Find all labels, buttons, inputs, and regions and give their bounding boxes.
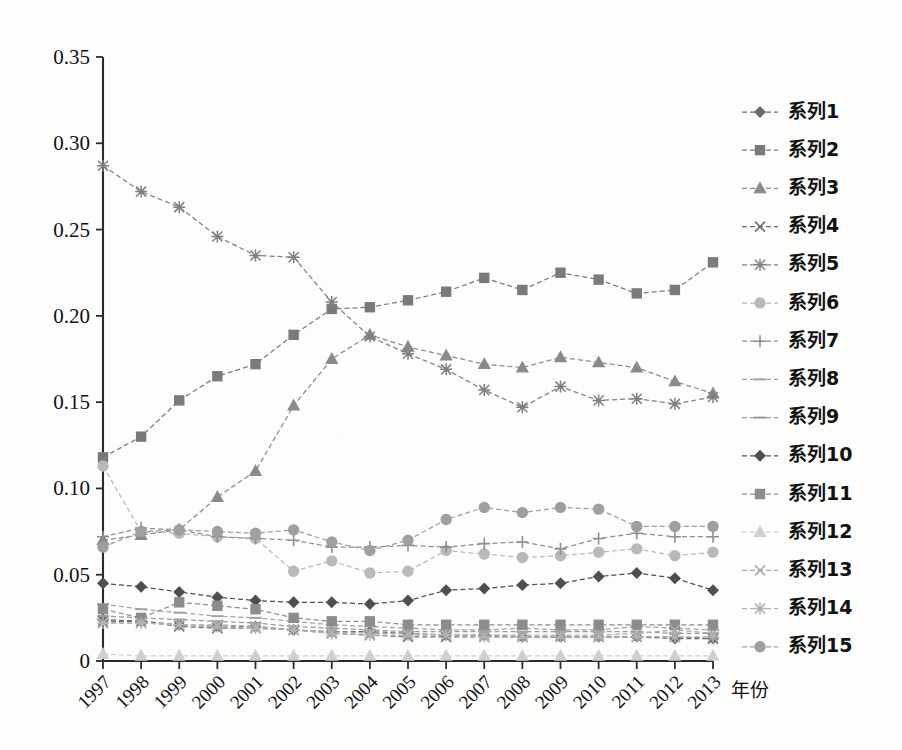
series-marker <box>175 396 184 405</box>
legend-label: 系列6 <box>788 291 839 313</box>
legend-item[interactable]: 系列8 <box>742 367 839 389</box>
legend-label: 系列9 <box>788 405 839 427</box>
series-marker <box>403 596 413 606</box>
series-marker <box>212 491 223 501</box>
legend-item[interactable]: 系列3 <box>742 176 839 198</box>
series-marker <box>327 537 337 547</box>
series-marker <box>709 258 718 267</box>
series-marker <box>137 432 146 441</box>
series-marker <box>251 605 260 614</box>
series-marker <box>480 273 489 282</box>
legend-label: 系列8 <box>788 367 839 389</box>
series-marker <box>404 296 413 305</box>
series-marker <box>365 599 375 609</box>
y-axis-ticks: 00.050.100.150.200.250.300.35 <box>53 45 103 673</box>
legend-item[interactable]: 系列4 <box>742 214 839 236</box>
series-marker <box>593 532 605 544</box>
legend-label: 系列15 <box>788 634 852 656</box>
legend-marker <box>754 603 766 615</box>
series-marker <box>403 650 414 660</box>
series-marker <box>479 502 489 512</box>
x-tick-label: 2008 <box>492 671 534 713</box>
series-marker <box>441 350 452 360</box>
legend-item[interactable]: 系列10 <box>742 443 852 465</box>
series-marker <box>250 466 261 476</box>
series-marker <box>212 527 222 537</box>
series-marker <box>478 631 490 643</box>
series-marker <box>669 650 680 660</box>
series-marker <box>326 627 338 639</box>
x-tick-label: 2007 <box>454 671 496 713</box>
x-tick-label: 2001 <box>226 671 268 713</box>
legend-item[interactable]: 系列13 <box>742 558 852 580</box>
series-marker <box>440 629 452 641</box>
line-chart: 00.050.100.150.200.250.300.3519971998199… <box>0 0 902 750</box>
x-tick-label: 2009 <box>531 671 573 713</box>
series-marker <box>516 401 528 413</box>
series-marker <box>289 597 299 607</box>
series-marker <box>98 578 108 588</box>
series-group <box>97 160 719 414</box>
x-tick-label: 2003 <box>302 671 344 713</box>
y-tick-label: 0.30 <box>53 131 90 155</box>
legend-item[interactable]: 系列9 <box>742 405 839 427</box>
series-marker <box>288 650 299 660</box>
series-marker <box>517 580 527 590</box>
series-marker <box>632 568 642 578</box>
legend-marker <box>755 451 765 461</box>
x-tick-label: 2002 <box>264 671 306 713</box>
series-marker <box>326 353 337 363</box>
series-marker <box>479 584 489 594</box>
series-marker <box>364 650 375 660</box>
series-marker <box>365 546 375 556</box>
series-marker <box>288 251 300 263</box>
chart-container: 00.050.100.150.200.250.300.3519971998199… <box>0 0 902 750</box>
legend-item[interactable]: 系列6 <box>742 291 839 313</box>
series-marker <box>631 650 642 660</box>
series-marker <box>669 376 680 386</box>
legend-item[interactable]: 系列2 <box>742 138 839 160</box>
series-marker <box>555 352 566 362</box>
legend-item[interactable]: 系列11 <box>742 482 852 504</box>
legend-item[interactable]: 系列12 <box>742 520 852 542</box>
series-marker <box>326 650 337 660</box>
legend-item[interactable]: 系列15 <box>742 634 852 656</box>
series-marker <box>365 568 375 578</box>
series-marker <box>670 551 680 561</box>
legend-item[interactable]: 系列14 <box>742 596 852 618</box>
series-marker <box>479 650 490 660</box>
series-marker <box>707 391 719 403</box>
series-marker <box>440 363 452 375</box>
x-tick-label: 1997 <box>73 671 115 713</box>
series-marker <box>594 275 603 284</box>
series-marker <box>288 400 299 410</box>
legend-item[interactable]: 系列1 <box>742 100 839 122</box>
series-group <box>98 648 719 660</box>
series-marker <box>174 587 184 597</box>
y-tick-label: 0.10 <box>53 476 90 500</box>
series-marker <box>327 556 337 566</box>
y-tick-label: 0.05 <box>53 563 90 587</box>
series-marker <box>174 525 184 535</box>
series-marker <box>555 631 567 643</box>
y-tick-label: 0.15 <box>53 390 90 414</box>
series-marker <box>707 631 719 643</box>
legend-label: 系列12 <box>788 520 852 542</box>
x-tick-label: 2013 <box>683 671 725 713</box>
series-marker <box>670 521 680 531</box>
series-marker <box>442 287 451 296</box>
series-marker <box>98 648 109 658</box>
series-marker <box>403 535 413 545</box>
legend-marker <box>755 527 766 537</box>
legend-label: 系列3 <box>788 176 839 198</box>
series-marker <box>517 508 527 518</box>
series-marker <box>441 514 451 524</box>
series-marker <box>669 631 681 643</box>
series-line <box>103 262 713 457</box>
series-marker <box>135 617 147 629</box>
legend-item[interactable]: 系列7 <box>742 329 839 351</box>
series-marker <box>365 303 374 312</box>
series-marker <box>326 296 338 308</box>
legend-item[interactable]: 系列5 <box>742 252 839 274</box>
series-marker <box>517 650 528 660</box>
